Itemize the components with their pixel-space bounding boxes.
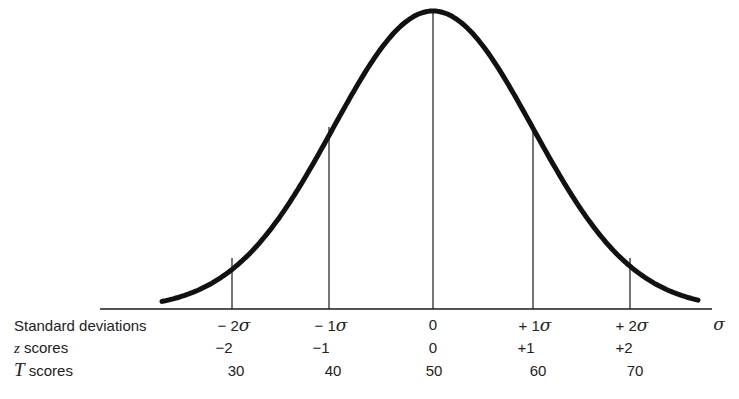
row-label-standard-deviations: Standard deviations bbox=[14, 317, 147, 335]
t-tick-30: 30 bbox=[228, 362, 245, 380]
t-tick-60: 60 bbox=[530, 362, 547, 380]
t-tick-40: 40 bbox=[325, 362, 342, 380]
z-tick-plus-1: +1 bbox=[517, 339, 534, 357]
row-label-z-scores: z scores bbox=[14, 339, 68, 357]
t-scores-text: scores bbox=[25, 362, 73, 379]
sigma-symbol: σ bbox=[637, 315, 649, 335]
sign: + bbox=[616, 317, 625, 334]
z-tick-minus-2: −2 bbox=[215, 339, 232, 357]
sign: − bbox=[315, 317, 324, 334]
t-tick-50: 50 bbox=[426, 362, 443, 380]
t-tick-70: 70 bbox=[627, 362, 644, 380]
z-tick-zero: 0 bbox=[429, 339, 437, 357]
z-scores-text: scores bbox=[20, 339, 68, 356]
sign: + bbox=[519, 317, 528, 334]
num: 0 bbox=[429, 316, 437, 333]
z-tick-plus-2: +2 bbox=[615, 339, 632, 357]
sign: − bbox=[218, 317, 227, 334]
row-label-t-scores: T scores bbox=[14, 361, 73, 380]
sd-tick-minus-2: − 2σ bbox=[218, 316, 251, 335]
sigma-symbol: σ bbox=[239, 315, 251, 335]
axis-sigma-label: σ bbox=[713, 315, 725, 333]
sigma-symbol: σ bbox=[540, 315, 552, 335]
sd-tick-minus-1: − 1σ bbox=[315, 316, 348, 335]
normal-curve bbox=[162, 11, 698, 301]
sd-tick-zero: 0 bbox=[429, 316, 437, 334]
sigma-symbol: σ bbox=[336, 315, 348, 335]
z-tick-minus-1: −1 bbox=[312, 339, 329, 357]
sd-tick-plus-1: + 1σ bbox=[519, 316, 552, 335]
t-symbol: T bbox=[14, 359, 25, 380]
sd-tick-plus-2: + 2σ bbox=[616, 316, 649, 335]
